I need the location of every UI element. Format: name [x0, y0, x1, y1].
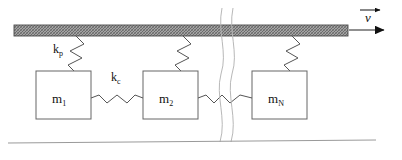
schematic-svg: m1 m2 mN kp kc v [0, 0, 402, 160]
plate-spring-label: kp [53, 42, 63, 58]
velocity-label: v [365, 10, 371, 25]
moving-plate [14, 25, 348, 36]
mass-box-1 [36, 71, 91, 119]
plate-body [14, 25, 348, 36]
plate-spring-2 [175, 36, 191, 71]
coupling-spring-2 [198, 95, 252, 103]
figure-canvas: m1 m2 mN kp kc v [0, 0, 402, 160]
ground-line [8, 140, 376, 143]
mass-boxes [36, 71, 307, 119]
plate-springs [68, 36, 300, 71]
plate-spring-1 [68, 36, 84, 71]
plate-spring-3 [284, 36, 300, 71]
coupling-spring-1 [91, 95, 143, 103]
coupling-spring-label: kc [111, 70, 121, 86]
mass-box-n [252, 71, 307, 119]
mass-box-2 [143, 71, 198, 119]
